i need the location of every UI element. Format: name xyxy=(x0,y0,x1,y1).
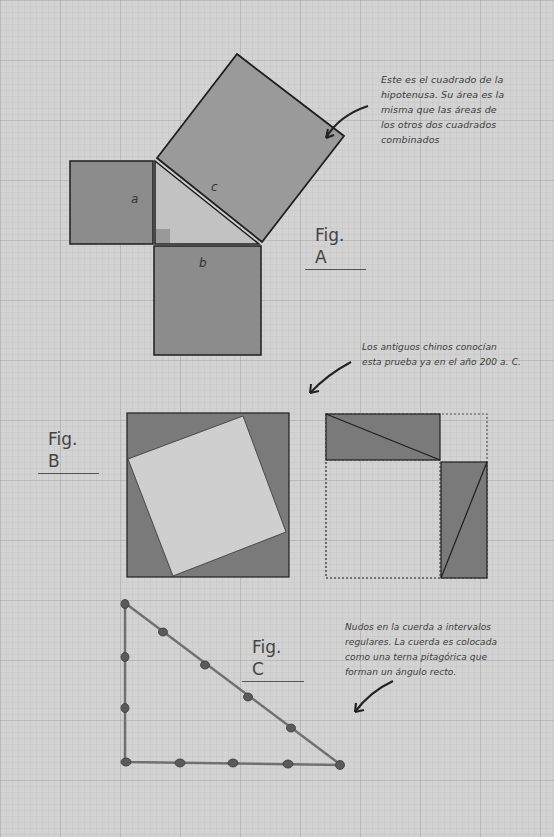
square-a xyxy=(70,161,153,244)
fig-b-diagram xyxy=(127,362,487,578)
note-line: Los antiguos chinos conocían xyxy=(362,340,554,355)
note-line: Nudos en la cuerda a intervalos xyxy=(345,620,550,635)
right-angle-marker xyxy=(156,229,170,243)
arrow-chinese-proof-icon xyxy=(310,362,351,393)
note-line: misma que las áreas de xyxy=(381,102,551,117)
square-b xyxy=(154,246,261,355)
note-line: esta prueba ya en el año 200 a. C. xyxy=(362,355,554,370)
fig-a-diagram xyxy=(70,54,368,355)
label-side-b: b xyxy=(199,256,207,270)
knot xyxy=(244,693,253,701)
note-line: combinados xyxy=(381,132,551,147)
fig-b-label: Fig. B xyxy=(38,428,99,474)
note-chinese-proof: Los antiguos chinos conocían esta prueba… xyxy=(362,340,554,370)
arrow-rope-icon xyxy=(355,681,393,712)
knot xyxy=(121,653,129,662)
knot xyxy=(228,759,238,767)
note-line: los otros dos cuadrados xyxy=(381,117,551,132)
knot xyxy=(336,761,345,770)
label-side-a: a xyxy=(131,192,138,206)
knot xyxy=(283,760,293,768)
knot xyxy=(121,704,129,713)
rope-triangle xyxy=(125,603,341,765)
note-rope-knots: Nudos en la cuerda a intervalos regulare… xyxy=(345,620,550,680)
knot xyxy=(159,628,168,636)
note-line: hipotenusa. Su área es la xyxy=(381,87,551,102)
note-line: forman un ángulo recto. xyxy=(345,665,550,680)
knot xyxy=(121,758,131,766)
knot xyxy=(175,759,185,767)
dotted-large-square xyxy=(326,460,440,578)
note-line: regulares. La cuerda es colocada xyxy=(345,635,550,650)
note-line: Este es el cuadrado de la xyxy=(381,72,551,87)
knot xyxy=(287,724,296,732)
fig-a-label: Fig. A xyxy=(305,224,366,270)
fig-c-label: Fig. C xyxy=(242,636,304,682)
label-side-c: c xyxy=(211,180,218,194)
note-line: como una terna pitagórica que xyxy=(345,650,550,665)
note-hypotenuse: Este es el cuadrado de la hipotenusa. Su… xyxy=(381,72,551,147)
knot xyxy=(201,661,210,669)
knot xyxy=(121,600,129,609)
